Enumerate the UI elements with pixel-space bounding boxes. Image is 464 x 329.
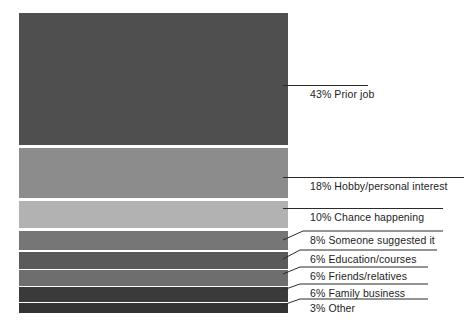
callout-label-family-business: 6% Family business <box>310 287 405 299</box>
bar-segment-someone-suggested-it[interactable] <box>19 231 288 250</box>
bar-segment-prior-job[interactable] <box>19 13 288 145</box>
bar-segment-chance-happening[interactable] <box>19 201 288 228</box>
callout-label-friends-relatives: 6% Friends/relatives <box>310 270 407 282</box>
stacked-column <box>19 13 288 313</box>
leader-line-other <box>283 299 428 305</box>
callout-label-hobby-personal-interest: 18% Hobby/personal interest <box>310 180 448 192</box>
callout-label-education-courses: 6% Education/courses <box>310 253 416 265</box>
callout-label-other: 3% Other <box>310 302 355 314</box>
bar-segment-family-business[interactable] <box>19 287 288 302</box>
callout-label-chance-happening: 10% Chance happening <box>310 211 424 223</box>
stacked-bar-chart: 43% Prior job 18% Hobby/personal interes… <box>0 0 464 329</box>
callout-label-someone-suggested-it: 8% Someone suggested it <box>310 234 435 246</box>
callout-label-prior-job: 43% Prior job <box>310 88 374 100</box>
bar-segment-hobby-personal-interest[interactable] <box>19 148 288 198</box>
bar-segment-other[interactable] <box>19 303 288 313</box>
bar-segment-friends-relatives[interactable] <box>19 270 288 286</box>
bar-segment-education-courses[interactable] <box>19 252 288 269</box>
